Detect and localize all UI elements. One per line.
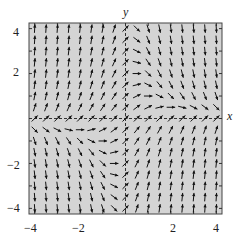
xtick-label-neg2: −2 <box>72 222 85 234</box>
ytick-label-neg4: −4 <box>7 202 20 214</box>
xtick-label-neg4: −4 <box>24 222 37 234</box>
xtick-label-4: 4 <box>213 222 219 234</box>
ytick-label-4: 4 <box>13 26 19 38</box>
x-axis-label: x <box>227 110 232 122</box>
vector-field-plot <box>0 0 239 238</box>
ytick-label-2: 2 <box>13 66 19 78</box>
ytick-label-neg2: −2 <box>7 159 20 171</box>
xtick-label-2: 2 <box>170 222 176 234</box>
y-axis-label: y <box>123 6 128 18</box>
